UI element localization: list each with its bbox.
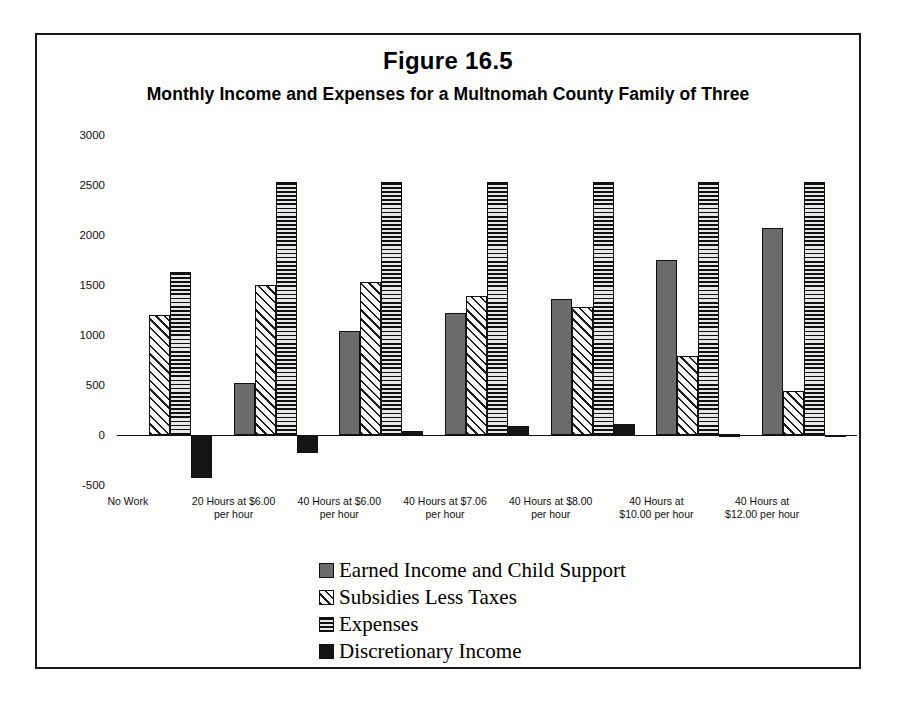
bar-subsidies-less-taxes [677, 356, 698, 435]
bar-discretionary-income [825, 435, 846, 437]
x-axis-category-label: 40 Hours at $8.00per hour [498, 495, 604, 521]
bar-subsidies-less-taxes [783, 391, 804, 435]
y-axis-tick-label: 500 [86, 379, 117, 391]
x-axis-category-label: 20 Hours at $6.00per hour [181, 495, 287, 521]
bar-earned-income-and-child-support [656, 260, 677, 435]
x-axis-category-line: per hour [286, 508, 392, 521]
x-axis-category-line: No Work [75, 495, 181, 508]
bar-subsidies-less-taxes [149, 315, 170, 435]
bar-expenses [381, 182, 402, 435]
bar-group: 40 Hours at$10.00 per hour [656, 135, 740, 485]
bar-discretionary-income [191, 435, 212, 478]
bar-expenses [698, 182, 719, 435]
y-axis-tick-label: 2500 [79, 179, 117, 191]
legend-item: Discretionary Income [319, 638, 626, 665]
bar-subsidies-less-taxes [360, 282, 381, 435]
bar-group: 40 Hours at $6.00per hour [339, 135, 423, 485]
x-axis-category-label: 40 Hours at $7.06per hour [392, 495, 498, 521]
y-axis-tick-label: 3000 [79, 129, 117, 141]
bar-group: 40 Hours at$12.00 per hour [762, 135, 846, 485]
bar-discretionary-income [297, 435, 318, 453]
bar-earned-income-and-child-support [551, 299, 572, 435]
x-axis-category-line: 40 Hours at $6.00 [286, 495, 392, 508]
legend-swatch-icon [319, 590, 334, 605]
bar-subsidies-less-taxes [572, 307, 593, 435]
bar-earned-income-and-child-support [339, 331, 360, 435]
bar-earned-income-and-child-support [234, 383, 255, 435]
bar-earned-income-and-child-support [445, 313, 466, 435]
bar-group: 40 Hours at $8.00per hour [551, 135, 635, 485]
x-axis-category-line: $10.00 per hour [604, 508, 710, 521]
legend-label: Earned Income and Child Support [339, 558, 626, 583]
bar-subsidies-less-taxes [466, 296, 487, 435]
y-axis-tick-label: 0 [99, 429, 117, 441]
x-axis-category-label: 40 Hours at$12.00 per hour [709, 495, 815, 521]
y-axis-tick-label: 1000 [79, 329, 117, 341]
y-axis-tick-label: -500 [82, 479, 117, 491]
x-axis-category-line: per hour [392, 508, 498, 521]
bar-discretionary-income [614, 424, 635, 435]
x-axis-category-line: 40 Hours at $8.00 [498, 495, 604, 508]
x-axis-category-label: 40 Hours at $6.00per hour [286, 495, 392, 521]
bar-expenses [593, 182, 614, 435]
bar-expenses [487, 182, 508, 435]
legend-label: Expenses [339, 612, 418, 637]
x-axis-category-line: $12.00 per hour [709, 508, 815, 521]
bar-group: No Work [128, 135, 212, 485]
legend-swatch-icon [319, 563, 334, 578]
x-axis-category-label: No Work [75, 495, 181, 508]
bar-expenses [170, 272, 191, 435]
legend-label: Subsidies Less Taxes [339, 585, 517, 610]
legend-item: Earned Income and Child Support [319, 557, 626, 584]
bar-discretionary-income [402, 431, 423, 435]
legend-swatch-icon [319, 617, 334, 632]
legend-label: Discretionary Income [339, 639, 522, 664]
x-axis-category-line: 20 Hours at $6.00 [181, 495, 287, 508]
plot-area: 300025002000150010005000-500No Work20 Ho… [117, 135, 857, 485]
bar-expenses [276, 182, 297, 435]
title-block: Figure 16.5 Monthly Income and Expenses … [37, 47, 859, 104]
y-axis-tick-label: 2000 [79, 229, 117, 241]
legend-item: Expenses [319, 611, 626, 638]
x-axis-category-line: 40 Hours at [709, 495, 815, 508]
x-axis-category-line: 40 Hours at $7.06 [392, 495, 498, 508]
bar-group: 20 Hours at $6.00per hour [234, 135, 318, 485]
x-axis-category-label: 40 Hours at$10.00 per hour [604, 495, 710, 521]
x-axis-category-line: per hour [181, 508, 287, 521]
bar-discretionary-income [719, 434, 740, 437]
y-axis-tick-label: 1500 [79, 279, 117, 291]
x-axis-category-line: 40 Hours at [604, 495, 710, 508]
bar-discretionary-income [508, 426, 529, 435]
bar-group: 40 Hours at $7.06per hour [445, 135, 529, 485]
bar-subsidies-less-taxes [255, 285, 276, 435]
chart-subtitle: Monthly Income and Expenses for a Multno… [37, 84, 859, 104]
legend-item: Subsidies Less Taxes [319, 584, 626, 611]
chart-legend: Earned Income and Child SupportSubsidies… [319, 557, 626, 665]
figure-frame: Figure 16.5 Monthly Income and Expenses … [35, 33, 861, 669]
x-axis-category-line: per hour [498, 508, 604, 521]
legend-swatch-icon [319, 644, 334, 659]
page-title: Figure 16.5 [37, 47, 859, 75]
bar-earned-income-and-child-support [762, 228, 783, 435]
bar-expenses [804, 182, 825, 435]
